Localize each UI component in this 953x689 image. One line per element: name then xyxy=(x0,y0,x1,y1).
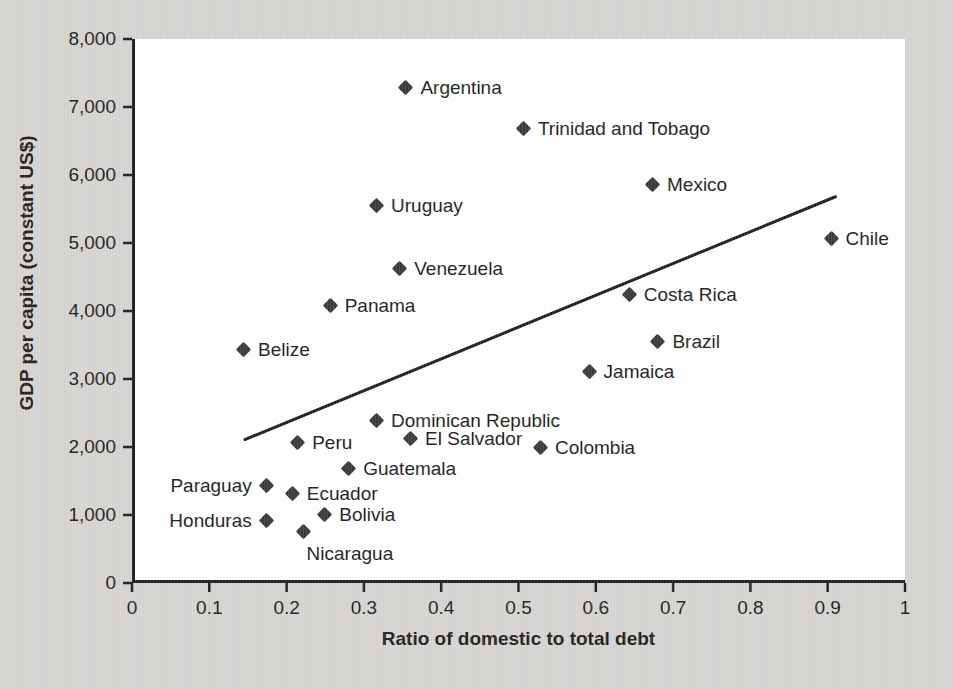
data-point-label: Panama xyxy=(345,296,416,315)
data-point[interactable]: Mexico xyxy=(647,174,727,194)
diamond-marker-icon xyxy=(645,177,661,193)
y-axis-title: GDP per capita (constant US$) xyxy=(16,43,38,503)
data-point-label: Colombia xyxy=(555,438,635,457)
x-tick-label: 0.2 xyxy=(247,597,327,619)
x-tick-label: 0.5 xyxy=(479,597,559,619)
y-tick-label: 1,000 xyxy=(0,504,116,526)
data-point-label: Uruguay xyxy=(391,196,463,215)
x-tick-label: 0 xyxy=(92,597,172,619)
data-point-label: Brazil xyxy=(672,332,720,351)
y-axis-ticks xyxy=(123,39,132,583)
diamond-marker-icon xyxy=(295,524,311,540)
data-point-label: El Salvador xyxy=(425,429,522,448)
data-point[interactable]: Colombia xyxy=(535,437,635,457)
data-point-label: Jamaica xyxy=(604,362,675,381)
data-point-label: Nicaragua xyxy=(307,544,394,563)
data-point-label: Chile xyxy=(846,229,889,248)
data-point[interactable]: Ecuador xyxy=(287,483,378,503)
diamond-marker-icon xyxy=(581,363,597,379)
data-point-label: Peru xyxy=(312,433,352,452)
data-point[interactable]: Costa Rica xyxy=(624,284,737,304)
data-point[interactable]: Guatemala xyxy=(343,457,456,477)
diamond-marker-icon xyxy=(341,461,357,477)
diamond-marker-icon xyxy=(392,261,408,277)
data-point[interactable]: Honduras xyxy=(169,509,271,529)
data-point-label: Mexico xyxy=(667,175,727,194)
diamond-marker-icon xyxy=(258,478,274,494)
data-point[interactable]: Peru xyxy=(292,432,352,452)
data-point[interactable]: Argentina xyxy=(400,77,501,97)
data-point-label: Costa Rica xyxy=(644,285,737,304)
data-point-label: Guatemala xyxy=(363,459,456,478)
diamond-marker-icon xyxy=(398,80,414,96)
x-tick-label: 0.1 xyxy=(169,597,249,619)
y-tick-label: 0 xyxy=(0,572,116,594)
data-point[interactable]: Belize xyxy=(238,338,310,358)
diamond-marker-icon xyxy=(285,486,301,502)
diamond-marker-icon xyxy=(650,333,666,349)
data-point-label: Honduras xyxy=(169,511,251,530)
data-point[interactable]: Chile xyxy=(826,228,889,248)
diamond-marker-icon xyxy=(322,298,338,314)
data-point[interactable]: Panama xyxy=(325,295,416,315)
data-point[interactable]: Uruguay xyxy=(371,195,463,215)
diamond-marker-icon xyxy=(290,435,306,451)
diamond-marker-icon xyxy=(403,431,419,447)
chart-figure: 01,0002,0003,0004,0005,0006,0007,0008,00… xyxy=(0,0,953,689)
chart-svg-layer xyxy=(0,0,953,689)
diamond-marker-icon xyxy=(236,342,252,358)
diamond-marker-icon xyxy=(369,413,385,429)
diamond-marker-icon xyxy=(622,287,638,303)
data-point[interactable]: Nicaragua xyxy=(298,521,394,563)
data-point[interactable]: El Salvador xyxy=(405,427,522,447)
diamond-marker-icon xyxy=(369,198,385,214)
data-point-label: Argentina xyxy=(420,78,501,97)
data-point[interactable]: Jamaica xyxy=(584,360,675,380)
x-tick-label: 1 xyxy=(865,597,945,619)
data-point-label: Ecuador xyxy=(307,484,378,503)
x-tick-label: 0.9 xyxy=(788,597,868,619)
data-point-label: Venezuela xyxy=(414,259,503,278)
x-tick-label: 0.4 xyxy=(401,597,481,619)
x-tick-label: 0.8 xyxy=(710,597,790,619)
diamond-marker-icon xyxy=(258,512,274,528)
data-point-label: Paraguay xyxy=(170,476,251,495)
x-axis-title: Ratio of domestic to total debt xyxy=(132,628,905,650)
data-point-label: Belize xyxy=(258,340,310,359)
x-tick-label: 0.3 xyxy=(324,597,404,619)
data-point[interactable]: Paraguay xyxy=(170,474,271,494)
data-point[interactable]: Trinidad and Tobago xyxy=(518,117,710,137)
x-axis-ticks xyxy=(132,583,905,592)
diamond-marker-icon xyxy=(533,440,549,456)
x-tick-label: 0.6 xyxy=(556,597,636,619)
diamond-marker-icon xyxy=(823,231,839,247)
data-point[interactable]: Brazil xyxy=(652,330,720,350)
x-tick-label: 0.7 xyxy=(633,597,713,619)
diamond-marker-icon xyxy=(516,121,532,137)
trendline xyxy=(245,197,836,440)
data-point-label: Trinidad and Tobago xyxy=(538,119,710,138)
data-point[interactable]: Venezuela xyxy=(394,257,503,277)
